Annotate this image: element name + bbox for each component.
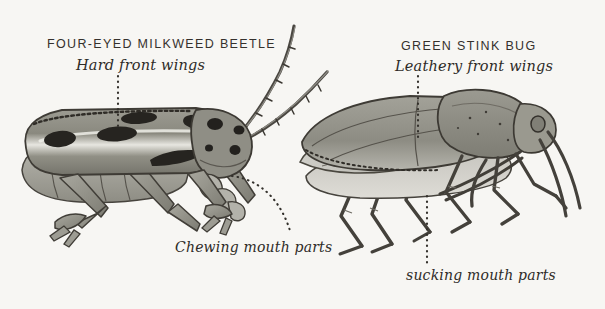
chewing-mouthparts-label: Chewing mouth parts xyxy=(175,240,332,255)
beetle-pronotum xyxy=(191,109,252,178)
bug-eye xyxy=(531,116,545,132)
beetle-common-name-label: FOUR-EYED MILKWEED BEETLE xyxy=(47,38,276,51)
stink-bug-illustration xyxy=(300,90,580,254)
stink-bug-front-wings-label: Leathery front wings xyxy=(395,59,553,74)
figure-canvas: FOUR-EYED MILKWEED BEETLE Hard front win… xyxy=(0,0,605,309)
sucking-mouthparts-label: sucking mouth parts xyxy=(406,268,556,283)
stink-bug-common-name-label: GREEN STINK BUG xyxy=(401,40,537,53)
beetle-front-wings-label: Hard front wings xyxy=(76,58,205,73)
